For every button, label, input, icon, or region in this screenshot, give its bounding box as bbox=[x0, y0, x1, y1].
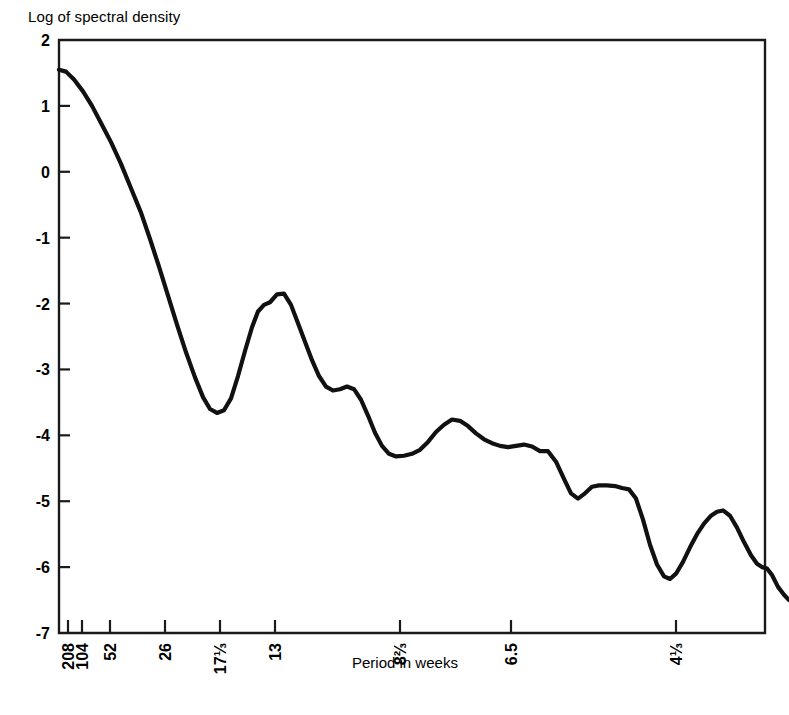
plot-frame bbox=[59, 40, 765, 633]
ticks-layer: 210-1-2-3-4-5-6-7208104522617⅓138⅔6.54⅓ bbox=[36, 32, 685, 674]
x-axis-tick-label: 17⅓ bbox=[212, 643, 229, 674]
y-axis-tick-label: -7 bbox=[36, 625, 50, 642]
x-axis-tick-label: 4⅓ bbox=[668, 643, 685, 665]
spectral-density-chart: Log of spectral density 210-1-2-3-4-5-6-… bbox=[0, 0, 789, 715]
data-series-line bbox=[59, 70, 789, 600]
y-axis-tick-label: -2 bbox=[36, 296, 50, 313]
y-axis-tick-label: -4 bbox=[36, 427, 50, 444]
plot-canvas: 210-1-2-3-4-5-6-7208104522617⅓138⅔6.54⅓ bbox=[0, 0, 789, 715]
y-axis-tick-label: -6 bbox=[36, 559, 50, 576]
x-axis-tick-label: 26 bbox=[157, 643, 174, 661]
data-line-layer bbox=[59, 70, 789, 600]
y-axis-tick-label: -5 bbox=[36, 493, 50, 510]
x-axis-tick-label: 104 bbox=[74, 643, 91, 670]
x-axis-title: Period in weeks bbox=[352, 654, 458, 671]
axes-layer bbox=[59, 40, 765, 633]
y-axis-tick-label: -3 bbox=[36, 361, 50, 378]
x-axis-tick-label: 6.5 bbox=[503, 643, 520, 665]
x-axis-tick-label: 13 bbox=[267, 643, 284, 661]
x-axis-tick-label: 52 bbox=[102, 643, 119, 661]
y-axis-tick-label: 0 bbox=[41, 164, 50, 181]
y-axis-tick-label: -1 bbox=[36, 230, 50, 247]
y-axis-tick-label: 1 bbox=[41, 98, 50, 115]
y-axis-tick-label: 2 bbox=[41, 32, 50, 49]
